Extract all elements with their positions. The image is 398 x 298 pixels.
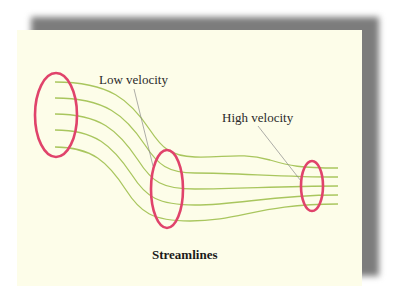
streamline-2 bbox=[55, 98, 338, 177]
high-velocity-leader bbox=[258, 126, 301, 181]
figure-caption: Streamlines bbox=[152, 247, 217, 262]
streamlines bbox=[55, 82, 338, 221]
streamline-5 bbox=[55, 147, 338, 221]
high-velocity-label: High velocity bbox=[222, 110, 294, 125]
leader-lines bbox=[134, 89, 301, 181]
low-velocity-leader bbox=[134, 89, 153, 166]
figure: Low velocity High velocity Streamlines bbox=[0, 0, 398, 298]
streamline-4 bbox=[55, 130, 338, 205]
streamline-1 bbox=[55, 82, 338, 168]
streamline-3 bbox=[55, 114, 338, 189]
low-velocity-label: Low velocity bbox=[99, 72, 168, 87]
streamlines-diagram: Low velocity High velocity Streamlines bbox=[0, 0, 398, 298]
middle-cross-section-ring bbox=[151, 150, 183, 228]
